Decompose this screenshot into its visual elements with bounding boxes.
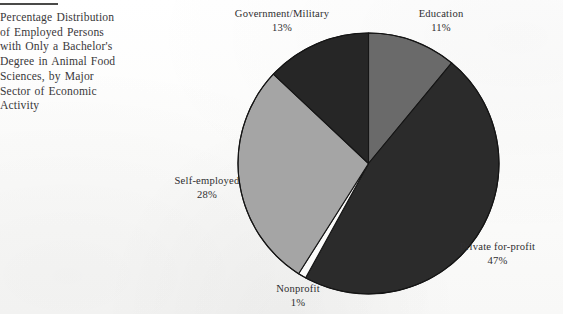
slice-label-value: 11% <box>386 21 496 35</box>
caption-text: Percentage Distribution of Employed Pers… <box>0 11 168 114</box>
slice-label-value: 1% <box>244 296 352 310</box>
figure-caption: Percentage Distribution of Employed Pers… <box>0 0 168 114</box>
slice-label-government-military: Government/Military 13% <box>212 7 352 34</box>
slice-label-private-for-profit: Private for-profit 47% <box>432 240 563 267</box>
slice-label-name: Education <box>386 7 496 21</box>
slice-label-value: 47% <box>432 254 563 268</box>
slice-label-name: Private for-profit <box>432 240 563 254</box>
caption-line: Degree in Animal Food <box>0 55 168 70</box>
slice-label-value: 28% <box>152 188 262 202</box>
caption-line: Sciences, by Major <box>0 70 168 85</box>
caption-line: Sector of Economic <box>0 85 168 100</box>
slice-label-name: Self-employed <box>152 174 262 188</box>
slice-label-education: Education 11% <box>386 7 496 34</box>
caption-line: Activity <box>0 99 168 114</box>
caption-line: Percentage Distribution <box>0 11 168 26</box>
slice-label-value: 13% <box>212 21 352 35</box>
slice-label-nonprofit: Nonprofit 1% <box>244 282 352 309</box>
caption-line: of Employed Persons <box>0 26 168 41</box>
caption-rule-divider <box>0 3 58 5</box>
chart-page: Percentage Distribution of Employed Pers… <box>0 0 563 314</box>
slice-label-self-employed: Self-employed 28% <box>152 174 262 201</box>
slice-label-name: Government/Military <box>212 7 352 21</box>
caption-line: with Only a Bachelor's <box>0 40 168 55</box>
slice-label-name: Nonprofit <box>244 282 352 296</box>
